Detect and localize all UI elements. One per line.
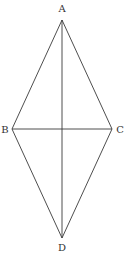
vertex-label-c: C xyxy=(116,124,124,135)
edges-group xyxy=(12,20,112,238)
side-ab xyxy=(12,20,62,129)
vertex-label-a: A xyxy=(57,3,66,14)
vertex-label-b: B xyxy=(1,124,8,135)
side-ac xyxy=(62,20,112,129)
side-cd xyxy=(62,129,112,238)
vertex-label-d: D xyxy=(58,242,66,253)
rhombus-diagram: A B C D xyxy=(0,0,128,263)
labels-group: A B C D xyxy=(1,3,124,253)
side-bd xyxy=(12,129,62,238)
